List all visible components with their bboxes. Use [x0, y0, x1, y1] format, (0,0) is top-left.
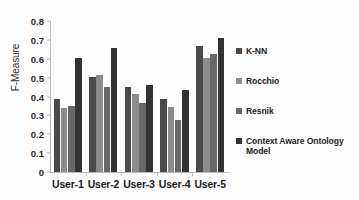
bar	[218, 38, 225, 172]
legend-swatch-icon	[236, 78, 242, 84]
legend-item[interactable]: Resnik	[236, 106, 274, 116]
x-axis-label: User-1	[50, 178, 86, 190]
x-axis-label: User-2	[86, 178, 122, 190]
x-axis-group-separator	[86, 172, 87, 176]
legend-item[interactable]: Context Aware OntologyModel	[236, 136, 344, 156]
x-axis-group-separator	[192, 172, 193, 176]
legend-label: Context Aware OntologyModel	[246, 136, 344, 156]
legend-item[interactable]: Rocchio	[236, 76, 279, 86]
bar	[210, 54, 217, 172]
bar	[89, 77, 96, 172]
x-axis-line	[50, 172, 229, 173]
bar-group	[192, 21, 228, 172]
x-axis-label: User-4	[157, 178, 193, 190]
bar	[68, 106, 75, 172]
bar	[96, 75, 103, 172]
plot-area: 0.80.70.60.50.40.30.20.10	[50, 21, 228, 172]
x-axis-group-separator	[121, 172, 122, 176]
bar	[203, 58, 210, 172]
legend-label: K-NN	[246, 46, 267, 56]
y-axis-title: F-Measure	[10, 33, 21, 103]
legend-swatch-icon	[236, 138, 242, 144]
bar	[75, 58, 82, 172]
x-axis-label: User-5	[192, 178, 228, 190]
bar	[175, 120, 182, 172]
legend-label: Resnik	[246, 106, 274, 116]
bar-chart: F-Measure 0.80.70.60.50.40.30.20.10 User…	[0, 0, 359, 200]
bar-group	[157, 21, 193, 172]
bar	[54, 99, 61, 172]
x-axis-label: User-3	[121, 178, 157, 190]
bar	[132, 94, 139, 172]
bar	[160, 99, 167, 172]
legend-label: Rocchio	[246, 76, 279, 86]
bar	[196, 46, 203, 172]
bar-group	[50, 21, 86, 172]
bar-group	[86, 21, 122, 172]
bar	[146, 85, 153, 172]
legend-swatch-icon	[236, 48, 242, 54]
legend-swatch-icon	[236, 108, 242, 114]
bar	[125, 87, 132, 173]
x-axis-group-separator	[157, 172, 158, 176]
legend-item[interactable]: K-NN	[236, 46, 267, 56]
bar	[168, 107, 175, 172]
bar	[61, 108, 68, 172]
bar-group	[121, 21, 157, 172]
bar	[182, 90, 189, 172]
bar	[139, 103, 146, 172]
bar	[111, 48, 118, 172]
bar	[104, 87, 111, 173]
